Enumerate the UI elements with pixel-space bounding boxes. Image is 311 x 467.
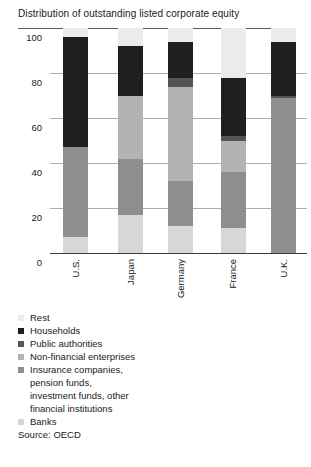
- bar-segment: [168, 78, 193, 87]
- y-tick-label: 40: [0, 167, 42, 178]
- legend-item: Banks: [18, 415, 135, 428]
- legend-swatch: [18, 328, 24, 334]
- bar-segment: [118, 96, 143, 159]
- x-category-label: Germany: [175, 259, 187, 298]
- legend-item: Public authorities: [18, 337, 135, 350]
- legend-label: Public authorities: [30, 337, 102, 350]
- y-tick-label: 80: [0, 77, 42, 88]
- bar-segment: [271, 28, 296, 42]
- legend-label: Insurance companies, pension funds, inve…: [30, 363, 129, 415]
- bar-segment: [168, 226, 193, 253]
- legend-label: Rest: [30, 311, 50, 324]
- bar-segment: [168, 87, 193, 182]
- legend-item: Insurance companies, pension funds, inve…: [18, 363, 135, 415]
- bar-segment: [168, 28, 193, 42]
- legend: RestHouseholdsPublic authoritiesNon-fina…: [18, 311, 135, 428]
- legend-swatch: [18, 341, 24, 347]
- bar-segment: [221, 228, 246, 253]
- bar-segment: [271, 98, 296, 253]
- bar-segment: [168, 181, 193, 226]
- bar-segment: [118, 28, 143, 46]
- y-tick-label: 100: [0, 32, 42, 43]
- legend-label: Non-financial enterprises: [30, 350, 135, 363]
- chart-figure: Distribution of outstanding listed corpo…: [0, 0, 311, 467]
- bar-segment: [221, 141, 246, 173]
- legend-swatch: [18, 354, 24, 360]
- bar-segment: [63, 147, 88, 237]
- title-underline: [18, 28, 296, 29]
- y-tick-label: 60: [0, 122, 42, 133]
- legend-item: Non-financial enterprises: [18, 350, 135, 363]
- y-tick-label: 20: [0, 212, 42, 223]
- chart-title: Distribution of outstanding listed corpo…: [18, 8, 239, 19]
- bar-column: [221, 28, 246, 253]
- legend-swatch: [18, 419, 24, 425]
- bar-column: [168, 28, 193, 253]
- source-note: Source: OECD: [18, 429, 81, 440]
- bar-segment: [63, 237, 88, 253]
- legend-swatch: [18, 367, 24, 373]
- legend-label: Households: [30, 324, 80, 337]
- bar-segment: [271, 42, 296, 96]
- x-category-label: U.S.: [70, 259, 82, 277]
- bar-segment: [221, 172, 246, 228]
- x-axis-line: [50, 253, 307, 254]
- bar-segment: [118, 46, 143, 96]
- legend-item: Rest: [18, 311, 135, 324]
- bar-segment: [221, 28, 246, 78]
- legend-label: Banks: [30, 415, 56, 428]
- bar-segment: [168, 42, 193, 78]
- bar-column: [63, 28, 88, 253]
- bar-column: [271, 28, 296, 253]
- legend-item: Households: [18, 324, 135, 337]
- x-category-label: U.K.: [278, 259, 290, 277]
- bar-column: [118, 28, 143, 253]
- bar-segment: [63, 37, 88, 147]
- y-tick-label: 0: [0, 257, 42, 268]
- legend-swatch: [18, 315, 24, 321]
- bar-segment: [118, 215, 143, 253]
- x-category-label: Japan: [125, 259, 137, 285]
- bar-segment: [118, 159, 143, 215]
- bar-segment: [221, 78, 246, 137]
- bar-segment: [63, 28, 88, 37]
- x-category-label: France: [227, 259, 239, 289]
